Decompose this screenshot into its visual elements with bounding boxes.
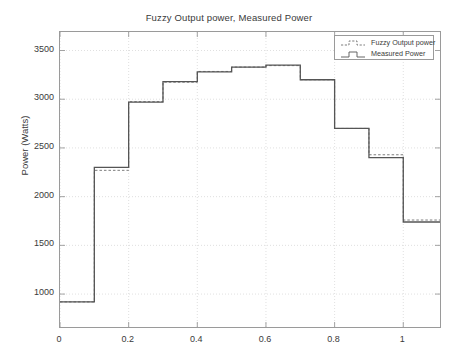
legend-swatch-dashed xyxy=(340,38,366,48)
legend-label-0: Fuzzy Output power xyxy=(371,37,435,48)
x-tick-label: 0.4 xyxy=(176,334,216,344)
series-line-dashed xyxy=(60,66,440,302)
plot-area xyxy=(59,31,441,328)
x-tick-label: 0 xyxy=(39,334,79,344)
x-tick-label: 1 xyxy=(382,334,422,344)
series-line-solid xyxy=(60,65,440,302)
legend-item-1: Measured Power xyxy=(335,48,435,60)
x-tick-label: 0.2 xyxy=(108,334,148,344)
y-tick-label: 2000 xyxy=(10,190,54,200)
plot-svg xyxy=(60,32,440,327)
y-tick-label: 3000 xyxy=(10,92,54,102)
chart-title: Fuzzy Output power, Measured Power xyxy=(0,12,458,23)
legend-swatch-solid xyxy=(340,49,366,59)
series-lines xyxy=(60,65,440,302)
x-tick-label: 0.6 xyxy=(245,334,285,344)
legend-label-1: Measured Power xyxy=(371,48,425,59)
tick-marks xyxy=(60,32,440,327)
figure: Fuzzy Output power, Measured Power Power… xyxy=(0,0,458,361)
x-tick-label: 0.8 xyxy=(314,334,354,344)
y-tick-label: 2500 xyxy=(10,141,54,151)
y-tick-label: 1500 xyxy=(10,238,54,248)
legend[interactable]: Fuzzy Output power Measured Power xyxy=(334,35,434,60)
y-tick-label: 3500 xyxy=(10,44,54,54)
y-tick-label: 1000 xyxy=(10,287,54,297)
grid-lines xyxy=(60,32,440,327)
